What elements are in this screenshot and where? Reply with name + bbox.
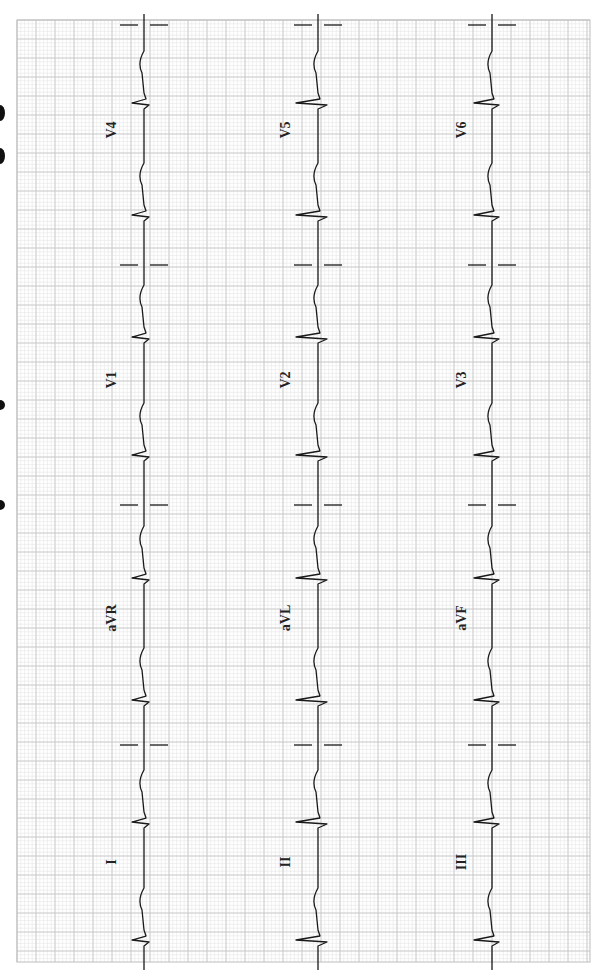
lead-label-avr: aVR xyxy=(104,598,120,638)
lead-label-v1: V1 xyxy=(104,360,120,400)
ecg-trace-row-3 xyxy=(474,14,499,970)
lead-label-v2: V2 xyxy=(278,360,294,400)
lead-label-v3: V3 xyxy=(454,360,470,400)
lead-label-avl: aVL xyxy=(278,598,294,638)
ecg-trace-row-2 xyxy=(296,14,327,970)
lead-label-ii: II xyxy=(278,842,294,882)
lead-label-iii: III xyxy=(454,842,470,882)
lead-label-v5: V5 xyxy=(278,110,294,150)
lead-label-v6: V6 xyxy=(454,110,470,150)
ecg-printout: V4V1aVRIV5V2aVLIIV6V3aVFIII xyxy=(0,0,610,980)
lead-label-i: I xyxy=(104,842,120,882)
ecg-grid-and-traces xyxy=(0,0,610,980)
lead-label-v4: V4 xyxy=(104,110,120,150)
lead-label-avf: aVF xyxy=(454,598,470,638)
ecg-traces xyxy=(132,14,499,970)
